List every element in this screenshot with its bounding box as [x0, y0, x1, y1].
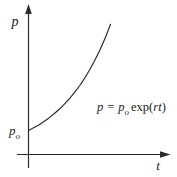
- y-axis-arrowhead-icon: [25, 4, 32, 14]
- equation-base: p: [117, 100, 124, 114]
- exponential-growth-figure: p t po p=poexp(rt): [0, 0, 177, 177]
- x-axis-arrowhead-icon: [160, 151, 171, 158]
- equation-func: exp(: [131, 100, 153, 114]
- equation-annotation: p=poexp(rt): [96, 100, 166, 117]
- x-axis-label: t: [156, 158, 160, 173]
- equation-lhs: p: [96, 100, 103, 114]
- equation-equals: =: [107, 100, 114, 114]
- y-intercept-subscript: o: [16, 131, 21, 141]
- y-axis-label: p: [11, 14, 19, 29]
- exponential-curve: [29, 24, 111, 130]
- plot-canvas: p t po p=poexp(rt): [0, 0, 177, 177]
- y-intercept-label: po: [8, 123, 21, 141]
- equation-close: ): [162, 100, 166, 114]
- equation-subscript: o: [125, 107, 130, 117]
